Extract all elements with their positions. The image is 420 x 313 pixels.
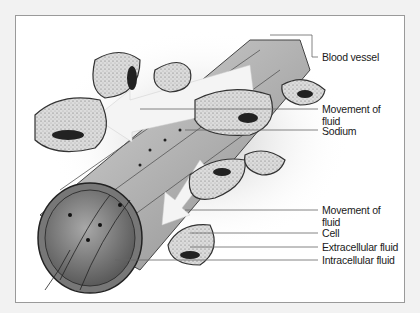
cell (154, 63, 191, 93)
sodium-particle (179, 129, 182, 132)
label-extracellular-fluid: Extracellular fluid (322, 242, 398, 253)
diagram-illustration (0, 0, 420, 313)
label-intracellular-fluid: Intracellular fluid (322, 255, 395, 266)
label-blood-vessel: Blood vessel (322, 52, 379, 63)
label-sodium: Sodium (322, 126, 356, 137)
cell (35, 98, 106, 152)
sodium-particle (139, 164, 142, 167)
label-cell: Cell (322, 228, 339, 239)
sodium-particle (164, 139, 167, 142)
sodium-particle (149, 149, 152, 152)
label-movement-of-fluid-top-1: Movement of (322, 104, 381, 115)
cell (195, 90, 273, 136)
label-movement-of-fluid-bottom-1: Movement of (322, 205, 381, 216)
